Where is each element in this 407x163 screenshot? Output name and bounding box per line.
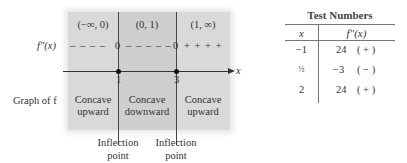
sign-positive-3: + + + +	[184, 40, 223, 52]
axis-label: x	[236, 65, 241, 77]
axis-arrow-icon	[228, 68, 235, 74]
table-title: Test Numbers	[285, 9, 395, 21]
x-axis	[63, 71, 230, 72]
graph-row-label: Graph of f	[13, 95, 57, 107]
inflection-annotation-1: Inflectionpoint	[93, 136, 143, 162]
concavity-label-3: Concaveupward	[176, 94, 230, 118]
table-header-f: f″(x)	[318, 27, 395, 39]
sign-zero-1: 0	[115, 40, 120, 52]
table-top-rule	[285, 24, 395, 25]
sign-negative-1: – – – –	[70, 40, 106, 52]
table-cell-value: 24	[336, 84, 347, 96]
interval-label-2: (0, 1)	[118, 19, 176, 31]
tick-label-2: 3	[174, 74, 179, 86]
interval-label-1: (−∞, 0)	[68, 19, 118, 31]
table-cell-x: 2	[285, 84, 318, 96]
sign-row-label: f″(x)	[37, 40, 56, 52]
table-cell-x: −1	[285, 44, 318, 56]
inflection-annotation-2: Inflectionpoint	[151, 136, 201, 162]
sign-negative-2: – – – – –	[126, 40, 172, 52]
table-cell-value: 24	[336, 44, 347, 56]
table-cell-sign: ( + )	[357, 44, 375, 56]
concavity-label-2: Concavedownward	[118, 94, 176, 118]
table-column-divider	[318, 24, 319, 103]
table-header-rule	[285, 40, 395, 41]
table-cell-sign: ( + )	[357, 84, 375, 96]
table-cell-sign: ( − )	[357, 64, 375, 76]
table-cell-x: ½	[285, 64, 318, 76]
table-cell-value: −3	[333, 64, 344, 76]
concavity-label-1: Concaveupward	[68, 94, 118, 118]
table-header-x: x	[285, 27, 318, 39]
tick-label-1: 1	[116, 74, 121, 86]
sign-zero-2: 0	[173, 40, 178, 52]
interval-label-3: (1, ∞)	[176, 19, 230, 31]
